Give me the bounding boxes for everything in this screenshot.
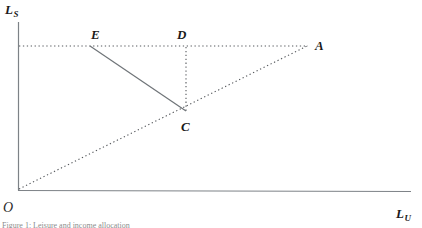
x-axis-label: LU <box>396 207 411 223</box>
diagram-canvas <box>0 0 422 228</box>
y-axis-label-subscript: S <box>13 9 19 19</box>
segment-e-c <box>90 46 186 111</box>
y-axis-label-text: L <box>5 2 13 17</box>
point-label-c: C <box>181 120 190 133</box>
cropped-caption: Figure 1: Leisure and income allocation <box>2 221 302 228</box>
point-label-e: E <box>91 28 100 41</box>
figure-container: LS LU O E D A C Figure 1: Leisure and in… <box>0 0 422 228</box>
x-axis-line <box>18 191 411 192</box>
point-label-a: A <box>315 39 324 52</box>
x-axis-label-subscript: U <box>404 213 411 223</box>
equal-allocation-ray <box>19 46 307 189</box>
point-label-d: D <box>177 28 186 41</box>
origin-label: O <box>3 201 13 215</box>
x-axis-label-text: L <box>396 206 404 221</box>
y-axis-label: LS <box>5 3 18 19</box>
